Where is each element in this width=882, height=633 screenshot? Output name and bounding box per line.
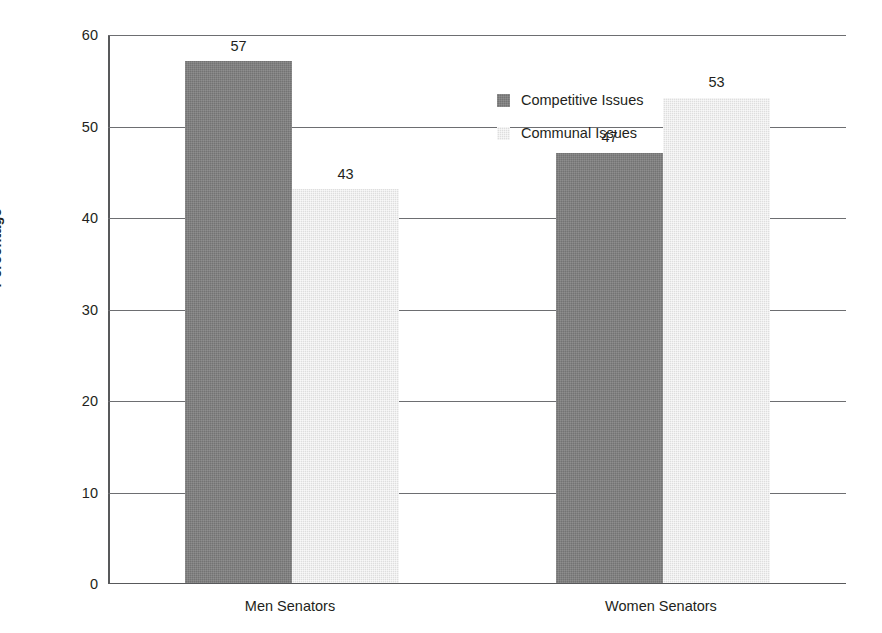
bar-men-competitive[interactable]	[185, 61, 292, 583]
y-tick-label-30: 30	[38, 302, 98, 318]
legend-item-competitive[interactable]: Competitive Issues	[497, 87, 644, 113]
plot-area: 57 43 47 53 Competitive Issues Communal …	[108, 35, 846, 584]
x-tick-label-men-senators: Men Senators	[185, 598, 395, 614]
chart-legend: Competitive Issues Communal Issues	[497, 87, 644, 153]
y-tick-label-50: 50	[38, 119, 98, 135]
y-axis-tick-labels: 60 50 40 30 20 10 0	[30, 35, 98, 584]
y-tick-label-10: 10	[38, 485, 98, 501]
legend-label-competitive: Competitive Issues	[521, 92, 644, 108]
x-axis-line	[108, 583, 846, 585]
competitive-swatch-icon	[497, 94, 510, 107]
legend-item-communal[interactable]: Communal Issues	[497, 120, 644, 146]
bar-value-women-communal: 53	[663, 74, 770, 90]
bar-women-communal[interactable]	[663, 98, 770, 583]
bar-value-men-communal: 43	[292, 166, 399, 182]
x-tick-label-women-senators: Women Senators	[556, 598, 766, 614]
y-axis-title: Percentage	[0, 178, 4, 318]
y-tick-label-20: 20	[38, 393, 98, 409]
y-tick-label-0: 0	[38, 576, 98, 592]
bar-value-men-competitive: 57	[185, 38, 292, 54]
bar-chart-figure: Percentage 60 50 40 30 20 10 0	[0, 0, 882, 633]
bar-women-competitive[interactable]	[556, 153, 663, 583]
bar-men-communal[interactable]	[292, 189, 399, 582]
legend-label-communal: Communal Issues	[521, 125, 637, 141]
gridline-60	[108, 35, 846, 36]
communal-swatch-icon	[497, 127, 510, 140]
y-tick-label-40: 40	[38, 210, 98, 226]
y-tick-label-60: 60	[38, 27, 98, 43]
